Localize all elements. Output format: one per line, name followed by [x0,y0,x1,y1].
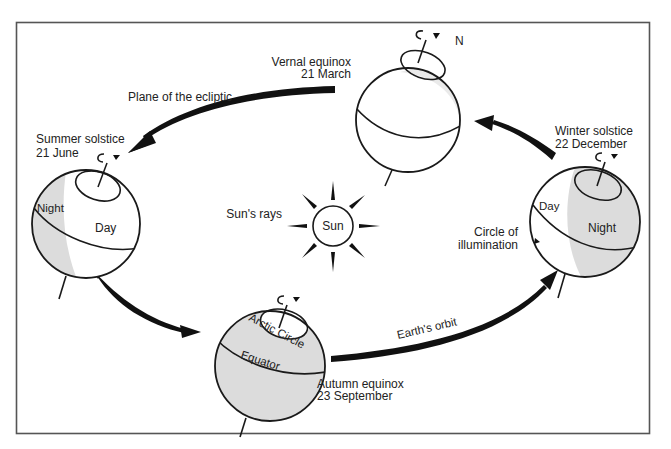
axis-south [59,276,66,299]
illumination-label-line2: illumination [458,238,518,252]
seasons-diagram: Sun Sun's rays N Vernal equinox 21 March [0,0,671,449]
sun-label: Sun [322,219,343,233]
summer-day-label: Day [95,221,116,235]
autumn-date: 23 September [317,389,392,403]
summer-date: 21 June [36,146,79,160]
globe-summer-solstice [30,154,140,299]
sun: Sun [287,181,380,272]
summer-night-label: Night [37,202,65,214]
winter-name: Winter solstice [555,124,633,138]
summer-to-autumn-arrow [92,269,201,338]
rotation-icon [596,153,602,161]
earths-orbit-arrow [331,270,558,362]
ecliptic-label: Plane of the ecliptic [128,90,232,104]
axis-south [385,170,392,186]
vernal-date: 21 March [301,67,351,81]
rotation-icon [278,296,284,304]
north-label: N [455,34,464,48]
winter-night-label: Night [588,221,617,235]
winter-day-label: Day [539,200,560,212]
winter-to-vernal-arrow [474,115,556,160]
globe-vernal-equinox [356,31,462,186]
illumination-label-line1: Circle of [474,225,519,239]
rotation-icon [416,31,423,39]
summer-name: Summer solstice [36,132,125,146]
sun-rays-label: Sun's rays [226,207,282,221]
rotation-icon [98,154,104,162]
axis-south [558,274,565,298]
winter-date: 22 December [555,137,627,151]
